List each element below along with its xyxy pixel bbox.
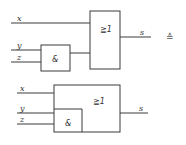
top-or-label: ≧1 xyxy=(100,25,112,34)
bottom-circuit: x y z & ≧1 s xyxy=(17,84,148,132)
top-label-y: y xyxy=(16,41,22,50)
bottom-label-x: x xyxy=(20,84,25,93)
top-label-z: z xyxy=(16,53,22,62)
top-or-gate xyxy=(90,11,120,69)
top-label-x: x xyxy=(17,14,22,23)
bottom-and-label: & xyxy=(65,119,71,128)
bottom-or-label: ≧1 xyxy=(93,97,105,106)
bottom-label-s: s xyxy=(139,104,143,113)
bottom-label-z: z xyxy=(19,115,25,124)
top-circuit: x y z & ≧1 s xyxy=(11,11,151,71)
top-label-s: s xyxy=(140,28,144,37)
logic-circuit-diagram: x y z & ≧1 s ≙ x y z & ≧1 s xyxy=(0,0,186,145)
equivalence-symbol: ≙ xyxy=(166,32,174,42)
top-and-label: & xyxy=(52,55,58,64)
bottom-label-y: y xyxy=(19,104,25,113)
